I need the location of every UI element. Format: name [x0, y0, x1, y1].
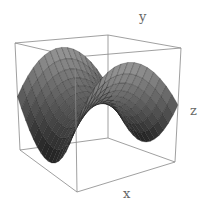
plot-canvas: [0, 0, 203, 215]
z-axis-label: z: [190, 104, 197, 117]
y-axis-label: y: [139, 10, 146, 23]
x-axis-label: x: [123, 187, 130, 200]
saddle-surface: [18, 47, 179, 163]
surface-plot: y z x: [0, 0, 203, 215]
